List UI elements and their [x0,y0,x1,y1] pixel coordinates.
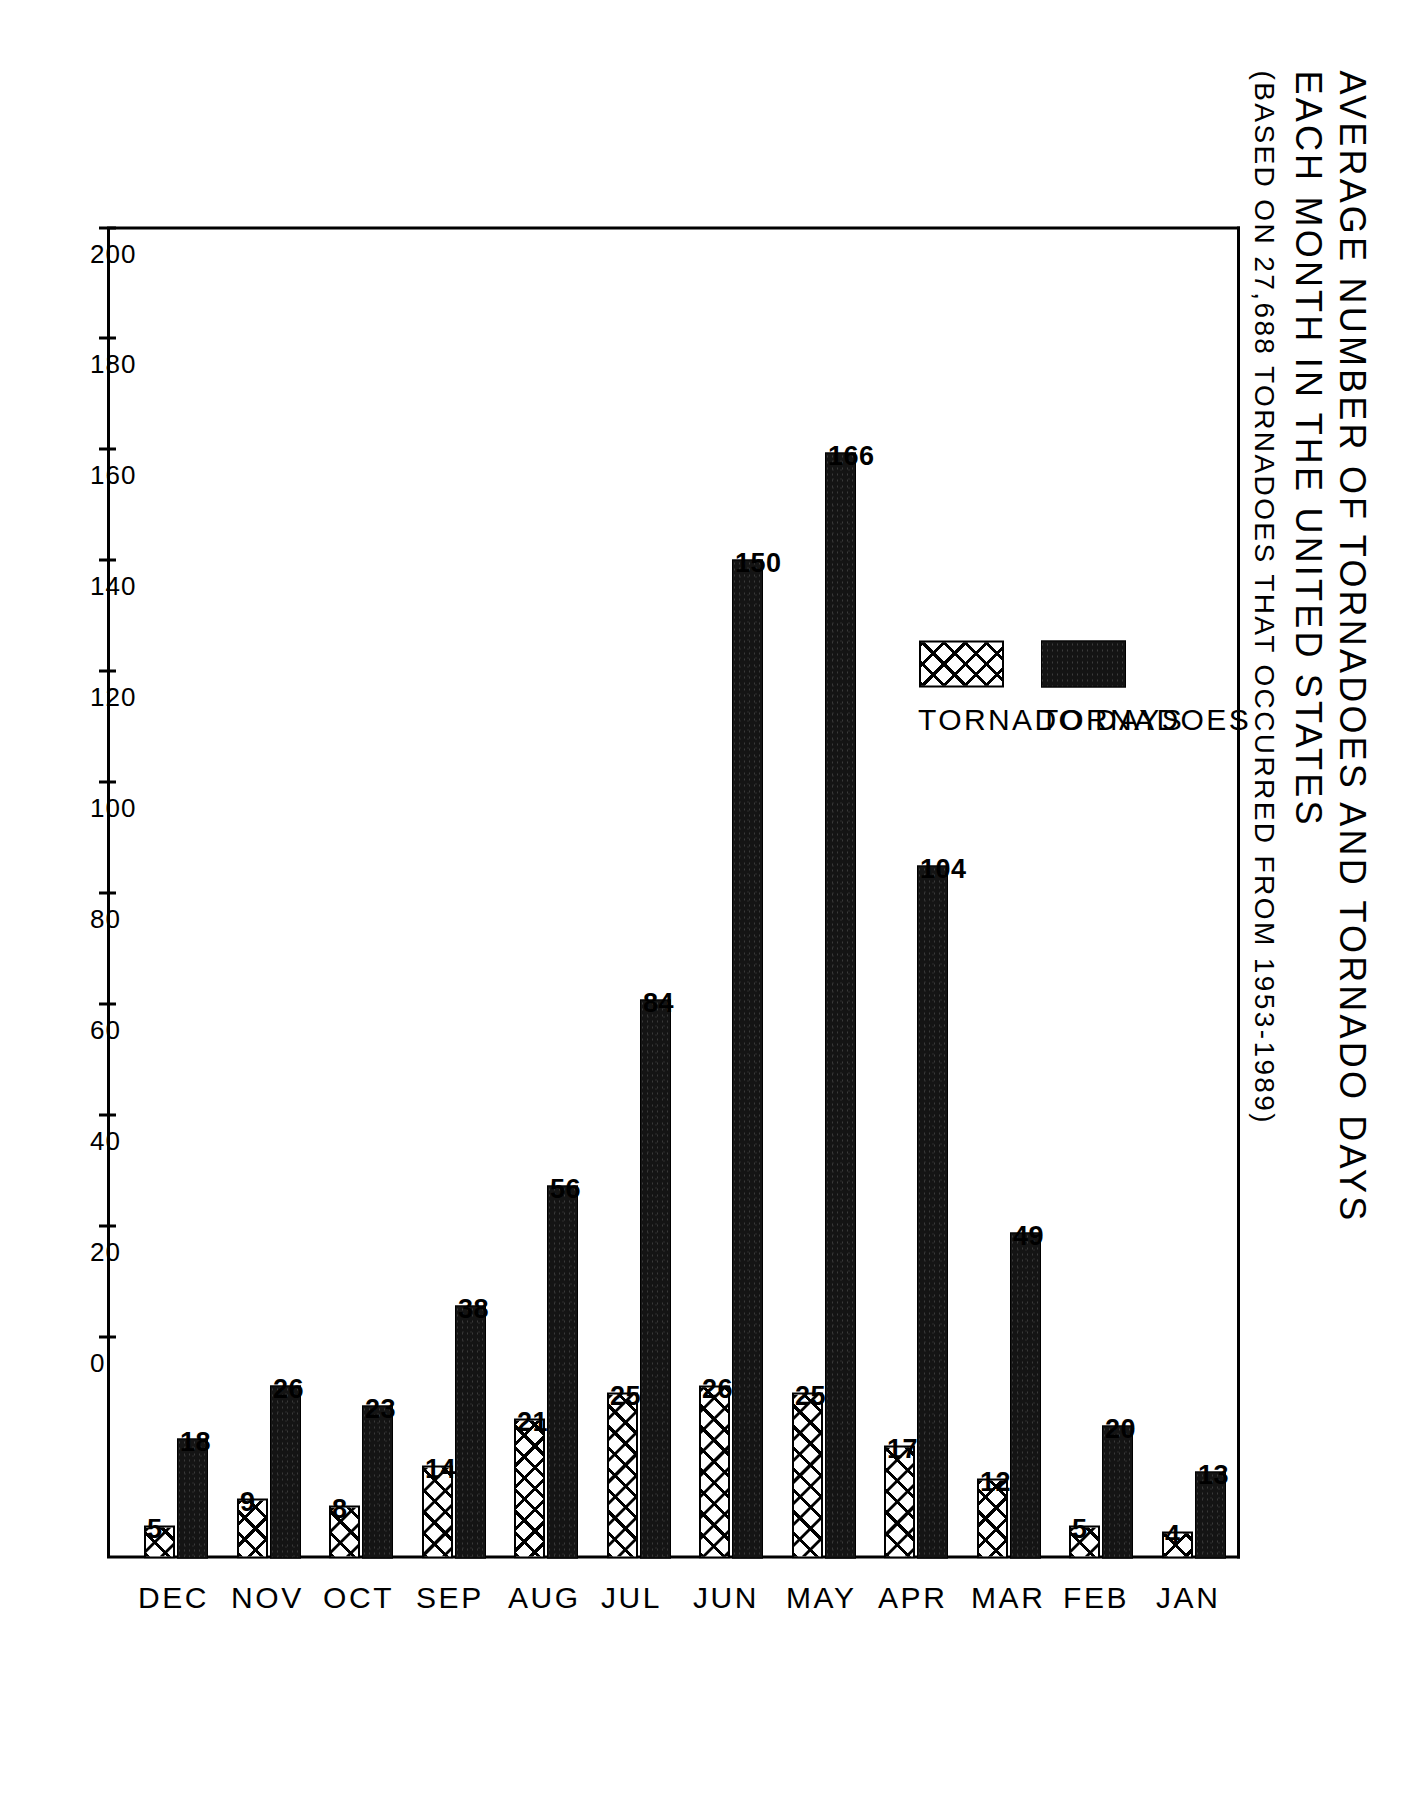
category-label-jun: JUN [694,1580,760,1614]
plot-frame [110,226,1240,1558]
title-block: AVERAGE NUMBER OF TORNADOES AND TORNADO … [1248,70,1374,1570]
axis-tick [99,891,116,894]
chart-title-line-1: AVERAGE NUMBER OF TORNADOES AND TORNADO … [1330,70,1374,1570]
bar-value-label: 5 [148,1513,164,1544]
axis-tick [99,1113,116,1116]
bar-value-label: 84 [643,987,674,1018]
axis-tick-label: 120 [90,681,136,712]
bar-value-label: 20 [1106,1413,1137,1444]
bar-tornadoes-may [825,452,856,1558]
bar-tornado-days-may [792,1392,823,1559]
bar-value-label: 25 [610,1380,641,1411]
bar-tornado-days-jul [607,1392,638,1559]
axis-tick [99,447,116,450]
chart-canvas: AVERAGE NUMBER OF TORNADOES AND TORNADO … [0,0,1426,1813]
axis-tick-label: 180 [90,348,136,379]
bar-value-label: 12 [980,1466,1011,1497]
bar-value-label: 23 [366,1393,397,1424]
axis-tick-label: 60 [90,1014,121,1045]
axis-tick-label: 200 [90,238,136,269]
bar-value-label: 18 [181,1426,212,1457]
bar-value-label: 4 [1165,1519,1181,1550]
category-label-mar: MAR [971,1580,1045,1614]
axis-tick-label: 160 [90,459,136,490]
axis-tick-label: 100 [90,792,136,823]
bar-tornado-days-aug [515,1418,546,1558]
bar-tornadoes-mar [1010,1232,1041,1558]
legend-swatch-hatch-icon [919,640,1004,687]
bar-value-label: 150 [736,547,783,578]
bar-value-label: 26 [703,1373,734,1404]
axis-tick [99,226,116,229]
bar-value-label: 25 [795,1380,826,1411]
bar-value-label: 13 [1198,1459,1229,1490]
legend-swatch-solid-icon [1041,640,1126,687]
bar-value-label: 38 [458,1293,489,1324]
bar-value-label: 5 [1073,1513,1089,1544]
category-label-dec: DEC [139,1580,210,1614]
axis-tick [99,1335,116,1338]
category-label-sep: SEP [416,1580,484,1614]
bar-value-label: 49 [1013,1220,1044,1251]
category-label-apr: APR [879,1580,949,1614]
axis-tick-label: 20 [90,1236,121,1267]
bar-value-label: 166 [828,440,875,471]
axis-tick [99,336,116,339]
legend-label-tornado-days: TORNADO DAYS [918,702,1184,736]
category-label-jan: JAN [1156,1580,1220,1614]
axis-tick-label: 140 [90,570,136,601]
chart-title-line-2: EACH MONTH IN THE UNITED STATES [1286,70,1330,1570]
bar-value-label: 104 [921,853,968,884]
bar-tornadoes-nov [270,1385,301,1558]
category-label-nov: NOV [231,1580,304,1614]
category-label-oct: OCT [324,1580,395,1614]
category-label-jul: JUL [601,1580,662,1614]
axis-tick-label: 0 [90,1347,105,1378]
category-label-aug: AUG [509,1580,582,1614]
chart-subtitle: (BASED ON 27,688 TORNADOES THAT OCCURRED… [1248,70,1280,1570]
axis-tick [99,1002,116,1005]
bar-tornadoes-apr [918,865,949,1558]
axis-tick-label: 80 [90,903,121,934]
bar-tornado-days-jun [700,1385,731,1558]
axis-tick [99,780,116,783]
axis-tick [99,558,116,561]
bar-tornadoes-sep [455,1305,486,1558]
axis-tick [99,669,116,672]
category-label-feb: FEB [1064,1580,1130,1614]
bar-value-label: 56 [551,1173,582,1204]
bar-value-label: 14 [425,1453,456,1484]
bar-tornadoes-jun [733,559,764,1558]
bar-value-label: 21 [518,1406,549,1437]
bar-value-label: 17 [888,1433,919,1464]
bar-value-label: 9 [240,1486,256,1517]
category-label-may: MAY [786,1580,857,1614]
bar-tornadoes-oct [363,1405,394,1558]
axis-tick [99,1224,116,1227]
axis-tick-label: 40 [90,1125,121,1156]
bar-value-label: 8 [333,1493,349,1524]
bar-value-label: 26 [273,1373,304,1404]
bar-tornadoes-feb [1103,1425,1134,1558]
bar-tornadoes-jul [640,999,671,1558]
bar-tornadoes-aug [548,1185,579,1558]
